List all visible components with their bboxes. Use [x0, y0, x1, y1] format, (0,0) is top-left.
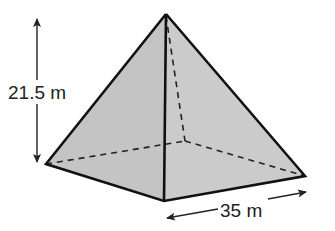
base-arrow-left	[167, 209, 218, 218]
base-side-label: 35 m	[220, 200, 262, 221]
pyramid-right-face	[164, 14, 305, 201]
height-label: 21.5 m	[8, 82, 66, 103]
pyramid-left-face	[46, 14, 166, 201]
base-arrow-right	[268, 192, 306, 199]
pyramid-diagram: 21.5 m 35 m	[0, 0, 335, 231]
